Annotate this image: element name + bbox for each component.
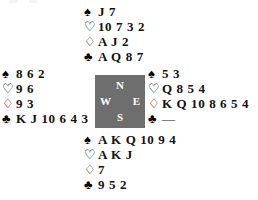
diamond-icon: ♢	[148, 97, 161, 110]
hand-north-spades-row: ♠ J 7	[84, 4, 145, 19]
hand-north-diamonds: A J 2	[98, 35, 129, 48]
hand-west-diamonds-row: ♢ 9 3	[2, 96, 89, 111]
heart-icon: ♡	[148, 82, 161, 95]
heart-icon: ♡	[84, 148, 97, 161]
scan-artifact	[29, 0, 37, 3]
diamond-icon: ♢	[2, 97, 15, 110]
bridge-deal-diagram: ♠ J 7 ♡ 10 7 3 2 ♢ A J 2 ♣ A Q 8 7 ♠ 8 6…	[0, 0, 258, 200]
heart-icon: ♡	[2, 82, 15, 95]
compass-label-north: N	[95, 80, 145, 91]
hand-south-spades: A K Q 10 9 4	[98, 133, 176, 146]
hand-north-clubs-row: ♣ A Q 8 7	[84, 49, 145, 64]
heart-icon: ♡	[84, 20, 97, 33]
hand-west-clubs: K J 10 6 4 3	[16, 112, 89, 125]
hand-west-clubs-row: ♣ K J 10 6 4 3	[2, 111, 89, 126]
hand-east-spades-row: ♠ 5 3	[148, 66, 249, 81]
hand-south-spades-row: ♠ A K Q 10 9 4	[84, 132, 176, 147]
scan-artifact	[9, 0, 18, 3]
compass-label-east: E	[133, 96, 140, 107]
hand-east-hearts-row: ♡ Q 8 5 4	[148, 81, 249, 96]
hand-south-diamonds: 7	[98, 163, 105, 176]
hand-south: ♠ A K Q 10 9 4 ♡ A K J ♢ 7 ♣ 9 5 2	[84, 132, 176, 192]
hand-south-hearts-row: ♡ A K J	[84, 147, 176, 162]
hand-north-hearts: 10 7 3 2	[98, 20, 145, 33]
hand-north: ♠ J 7 ♡ 10 7 3 2 ♢ A J 2 ♣ A Q 8 7	[84, 4, 145, 64]
hand-east-spades: 5 3	[162, 67, 180, 80]
hand-east-diamonds-row: ♢ K Q 10 8 6 5 4	[148, 96, 249, 111]
hand-west: ♠ 8 6 2 ♡ 9 6 ♢ 9 3 ♣ K J 10 6 4 3	[2, 66, 89, 126]
hand-east: ♠ 5 3 ♡ Q 8 5 4 ♢ K Q 10 8 6 5 4 ♣ —	[148, 66, 249, 126]
spade-icon: ♠	[84, 5, 97, 18]
spade-icon: ♠	[2, 67, 15, 80]
hand-west-hearts-row: ♡ 9 6	[2, 81, 89, 96]
hand-east-clubs: —	[162, 112, 175, 125]
club-icon: ♣	[84, 178, 97, 191]
compass-label-west: W	[100, 96, 111, 107]
diamond-icon: ♢	[84, 35, 97, 48]
hand-east-hearts: Q 8 5 4	[162, 82, 206, 95]
hand-north-clubs: A Q 8 7	[98, 50, 144, 63]
hand-west-spades: 8 6 2	[16, 67, 45, 80]
hand-south-clubs-row: ♣ 9 5 2	[84, 177, 176, 192]
diamond-icon: ♢	[84, 163, 97, 176]
hand-south-diamonds-row: ♢ 7	[84, 162, 176, 177]
hand-north-spades: J 7	[98, 5, 116, 18]
hand-north-hearts-row: ♡ 10 7 3 2	[84, 19, 145, 34]
hand-south-hearts: A K J	[98, 148, 133, 161]
club-icon: ♣	[2, 112, 15, 125]
compass-box: N W E S	[95, 75, 145, 128]
hand-north-diamonds-row: ♢ A J 2	[84, 34, 145, 49]
club-icon: ♣	[148, 112, 161, 125]
hand-south-clubs: 9 5 2	[98, 178, 127, 191]
spade-icon: ♠	[84, 133, 97, 146]
compass-label-south: S	[95, 112, 145, 123]
hand-west-hearts: 9 6	[16, 82, 34, 95]
hand-west-diamonds: 9 3	[16, 97, 34, 110]
hand-west-spades-row: ♠ 8 6 2	[2, 66, 89, 81]
spade-icon: ♠	[148, 67, 161, 80]
hand-east-clubs-row: ♣ —	[148, 111, 249, 126]
hand-east-diamonds: K Q 10 8 6 5 4	[162, 97, 249, 110]
club-icon: ♣	[84, 50, 97, 63]
